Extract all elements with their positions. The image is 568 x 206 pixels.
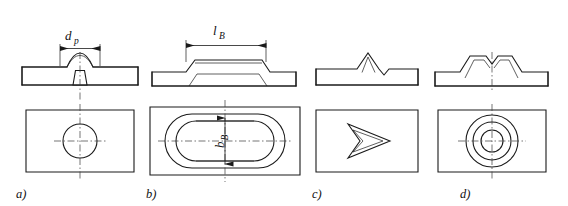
figure-svg: d p a) [0,0,568,206]
section-view-c [316,53,418,85]
technical-figure: d p a) [0,0,568,206]
plan-view-a [26,104,134,179]
dimension-label-lB-base: l [213,23,217,38]
dimension-lB [186,40,266,62]
dimension-label-bB-base: b [212,141,227,148]
dimension-label-lB-sub: B [219,31,225,41]
section-view-b [152,60,296,86]
panel-c: c) [312,53,418,201]
dimension-label-bB-sub: B [220,135,230,141]
plan-view-c [316,110,418,172]
panel-b: l B b B b) [146,23,300,201]
caption-c: c) [312,187,322,201]
caption-b: b) [146,187,156,201]
panel-a: d p a) [16,28,138,201]
caption-d: d) [460,187,470,201]
plan-view-d [438,104,546,179]
caption-a: a) [16,187,26,201]
section-view-d [435,52,548,92]
panel-d: d) [435,52,548,201]
dimension-label-dp-base: d [65,28,72,43]
dimension-label-dp-sub: p [73,36,79,46]
